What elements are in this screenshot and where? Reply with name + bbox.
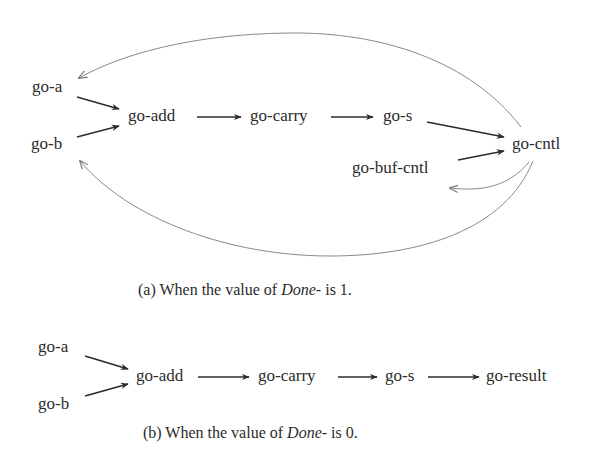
edge-a-goa-goadd xyxy=(77,97,119,109)
diagram-edges xyxy=(0,0,604,457)
node-b-go-result: go-result xyxy=(486,366,546,386)
caption-b-suffix: - is 0. xyxy=(322,424,358,441)
caption-a-suffix: - is 1. xyxy=(316,281,352,298)
edge-a-gob-goadd xyxy=(77,126,119,137)
caption-b-italic: Done xyxy=(287,424,322,441)
panel-a-feedback-edges xyxy=(79,33,533,256)
edge-a-gobufcntl-gocntl xyxy=(458,151,504,160)
edge-a-gocntl-gob xyxy=(80,161,533,256)
node-b-go-carry: go-carry xyxy=(258,366,316,386)
node-a-go-b: go-b xyxy=(31,134,62,154)
caption-b: (b) When the value of Done- is 0. xyxy=(143,424,358,442)
node-a-go-s: go-s xyxy=(383,106,412,126)
edge-b-goa-goadd xyxy=(85,356,128,369)
node-a-go-add: go-add xyxy=(128,106,175,126)
caption-a-italic: Done xyxy=(281,281,316,298)
edge-a-gos-gocntl xyxy=(427,122,504,137)
node-b-go-b: go-b xyxy=(38,394,69,414)
caption-a-prefix: (a) When the value of xyxy=(138,281,281,298)
node-b-go-s: go-s xyxy=(385,366,414,386)
node-b-go-add: go-add xyxy=(136,366,183,386)
node-b-go-a: go-a xyxy=(38,337,68,357)
caption-b-prefix: (b) When the value of xyxy=(143,424,287,441)
node-a-go-carry: go-carry xyxy=(250,106,308,126)
caption-a: (a) When the value of Done- is 1. xyxy=(138,281,352,299)
node-a-go-a: go-a xyxy=(32,77,62,97)
node-a-go-buf-cntl: go-buf-cntl xyxy=(352,158,428,178)
edge-b-gob-goadd xyxy=(85,384,128,396)
edge-a-gocntl-gobufcntl xyxy=(450,162,529,189)
node-a-go-cntl: go-cntl xyxy=(512,134,560,154)
